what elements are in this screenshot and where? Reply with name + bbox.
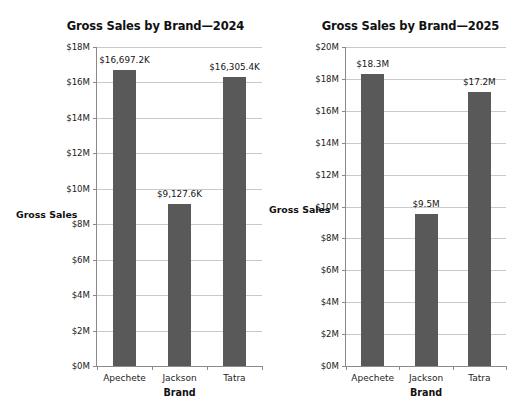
y-axis-tick (342, 302, 346, 303)
y-axis-tick-label: $4M (321, 297, 339, 307)
bar[interactable] (361, 74, 384, 366)
bar[interactable] (168, 204, 191, 366)
y-axis-title-2025: Gross Sales (269, 204, 330, 215)
y-axis-tick (93, 118, 97, 119)
bar[interactable] (415, 214, 438, 366)
y-axis-title-2024: Gross Sales (16, 209, 77, 220)
y-axis-tick-label: $10M (66, 184, 90, 194)
y-axis-tick (93, 189, 97, 190)
y-axis-tick-label: $8M (321, 233, 339, 243)
y-axis-tick (342, 79, 346, 80)
x-axis-tick (506, 366, 507, 370)
y-axis-tick (342, 175, 346, 176)
y-axis-tick (342, 47, 346, 48)
y-axis-tick-label: $18M (66, 42, 90, 52)
y-axis-tick-label: $16M (66, 77, 90, 87)
x-axis-tick (97, 366, 98, 370)
y-axis-tick-label: $2M (72, 326, 90, 336)
bar-value-label: $16,305.4K (209, 62, 260, 72)
y-axis-tick (342, 334, 346, 335)
y-axis-tick (93, 260, 97, 261)
bar[interactable] (223, 77, 246, 366)
y-axis-tick-label: $0M (321, 361, 339, 371)
gridline (97, 47, 262, 48)
bar-value-label: $16,697.2K (99, 55, 150, 65)
y-axis-tick (93, 82, 97, 83)
x-axis-title-2024: Brand (97, 387, 262, 398)
x-axis-tick (346, 366, 347, 370)
bar[interactable] (468, 92, 491, 366)
x-axis-category-label: Tatra (468, 373, 490, 383)
y-axis-tick (93, 331, 97, 332)
x-axis-category-label: Apechete (103, 373, 146, 383)
x-axis-category-label: Jackson (409, 373, 443, 383)
y-axis-tick-label: $12M (66, 148, 90, 158)
x-axis-tick (152, 366, 153, 370)
y-axis-tick-label: $4M (72, 290, 90, 300)
y-axis-tick-label: $16M (315, 106, 339, 116)
x-axis-title-2025: Brand (346, 387, 506, 398)
y-axis-tick (342, 270, 346, 271)
chart-panel-2025: Gross Sales by Brand—2025 Brand $0M$2M$4… (259, 0, 518, 420)
bar-value-label: $9,127.6K (157, 189, 202, 199)
x-axis-tick (207, 366, 208, 370)
charts-page: Gross Sales by Brand—2024 Brand $0M$2M$4… (0, 0, 518, 420)
bar[interactable] (113, 70, 136, 366)
chart-panel-2024: Gross Sales by Brand—2024 Brand $0M$2M$4… (0, 0, 259, 420)
x-axis-category-label: Tatra (223, 373, 245, 383)
plot-area-2025: Brand $0M$2M$4M$6M$8M$10M$12M$14M$16M$18… (345, 47, 506, 367)
plot-area-2024: Brand $0M$2M$4M$6M$8M$10M$12M$14M$16M$18… (96, 47, 262, 367)
y-axis-tick-label: $8M (72, 219, 90, 229)
plot-wrapper-2025: Brand $0M$2M$4M$6M$8M$10M$12M$14M$16M$18… (259, 0, 518, 420)
y-axis-tick-label: $0M (72, 361, 90, 371)
y-axis-tick-label: $6M (321, 265, 339, 275)
y-axis-tick (93, 224, 97, 225)
y-axis-tick (93, 47, 97, 48)
plot-wrapper-2024: Brand $0M$2M$4M$6M$8M$10M$12M$14M$16M$18… (0, 0, 259, 420)
y-axis-tick (93, 295, 97, 296)
x-axis-tick (399, 366, 400, 370)
y-axis-tick-label: $14M (315, 138, 339, 148)
bar-value-label: $18.3M (356, 59, 389, 69)
x-axis-category-label: Apechete (351, 373, 394, 383)
y-axis-tick-label: $2M (321, 329, 339, 339)
bar-value-label: $9.5M (412, 199, 439, 209)
y-axis-tick (93, 153, 97, 154)
x-axis-tick (453, 366, 454, 370)
bar-value-label: $17.2M (463, 77, 496, 87)
y-axis-tick-label: $6M (72, 255, 90, 265)
y-axis-tick-label: $12M (315, 170, 339, 180)
y-axis-tick (342, 143, 346, 144)
x-axis-category-label: Jackson (162, 373, 196, 383)
y-axis-tick-label: $14M (66, 113, 90, 123)
y-axis-tick (342, 207, 346, 208)
y-axis-tick-label: $20M (315, 42, 339, 52)
y-axis-tick (342, 111, 346, 112)
gridline (346, 47, 506, 48)
y-axis-tick-label: $18M (315, 74, 339, 84)
y-axis-tick (342, 238, 346, 239)
